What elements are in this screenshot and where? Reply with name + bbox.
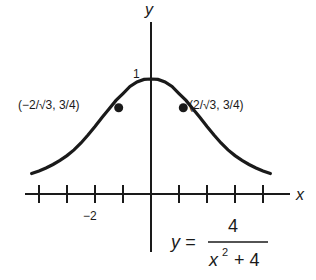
formula-denominator-exp: 2 <box>222 246 228 258</box>
formula-lhs: y = <box>169 232 196 252</box>
x-tick-label-neg2: −2 <box>83 209 97 223</box>
y-tick-label-1: 1 <box>133 67 140 81</box>
point-right-label: (2/√3, 3/4) <box>189 98 244 112</box>
point-right <box>179 103 188 112</box>
function-formula: y = 4 x 2 + 4 <box>169 216 268 270</box>
point-left <box>114 103 123 112</box>
y-axis-label: y <box>144 1 154 18</box>
function-graph: y x 1 −2 (−2/√3, 3/4) (2/√3, 3/4) y = 4 … <box>0 0 316 280</box>
point-left-label: (−2/√3, 3/4) <box>18 98 80 112</box>
x-axis-label: x <box>295 186 305 203</box>
formula-numerator: 4 <box>228 216 238 236</box>
formula-denominator-base: x <box>208 250 219 270</box>
formula-denominator-rest: + 4 <box>234 250 260 270</box>
